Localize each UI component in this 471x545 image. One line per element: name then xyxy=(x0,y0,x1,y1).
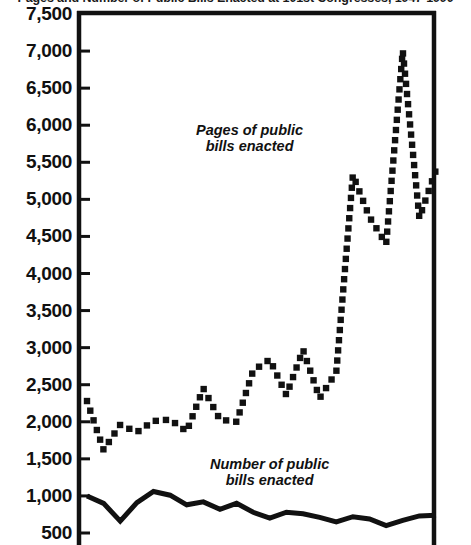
dotted-marker xyxy=(397,76,403,82)
dotted-marker xyxy=(117,422,123,428)
dotted-marker xyxy=(395,96,401,102)
dotted-marker xyxy=(215,413,221,419)
dotted-marker xyxy=(200,386,206,392)
dotted-marker xyxy=(111,430,117,436)
dotted-marker xyxy=(106,439,112,445)
dotted-marker xyxy=(180,426,186,432)
dotted-marker xyxy=(383,239,389,245)
dotted-marker xyxy=(135,428,141,434)
dotted-marker xyxy=(384,228,390,234)
dotted-marker xyxy=(422,197,428,203)
dotted-marker xyxy=(172,420,178,426)
dotted-marker xyxy=(197,394,203,400)
dotted-marker xyxy=(391,147,397,153)
dotted-marker xyxy=(385,218,391,224)
dotted-marker xyxy=(278,382,284,388)
dotted-marker xyxy=(307,367,313,373)
dotted-marker xyxy=(409,142,415,148)
dotted-marker xyxy=(404,91,410,97)
dotted-marker xyxy=(337,327,343,333)
dotted-marker xyxy=(338,307,344,313)
dotted-marker xyxy=(388,178,394,184)
dotted-marker xyxy=(223,417,229,423)
dotted-marker xyxy=(387,188,393,194)
dotted-marker xyxy=(286,383,292,389)
dotted-marker xyxy=(100,446,106,452)
annotation-number-of-public-bills-enacted: Number of public bills enacted xyxy=(210,456,329,488)
dotted-marker xyxy=(334,357,340,363)
dotted-marker xyxy=(297,355,303,361)
dotted-marker xyxy=(389,167,395,173)
dotted-marker xyxy=(144,422,150,428)
dotted-marker xyxy=(429,178,435,184)
dotted-marker xyxy=(186,423,192,429)
dotted-marker xyxy=(337,317,343,323)
dotted-marker xyxy=(246,380,252,386)
dotted-marker xyxy=(406,111,412,117)
dotted-marker xyxy=(205,395,211,401)
dotted-marker xyxy=(90,417,96,423)
dotted-marker xyxy=(343,246,349,252)
dotted-marker xyxy=(432,168,438,174)
annotation-pages-of-public-bills-enacted: Pages of public bills enacted xyxy=(196,122,303,154)
dotted-marker xyxy=(413,182,419,188)
dotted-marker xyxy=(328,376,334,382)
dotted-marker xyxy=(336,337,342,343)
dotted-marker xyxy=(153,418,159,424)
dotted-marker xyxy=(339,296,345,302)
dotted-marker xyxy=(270,363,276,369)
solid-line-path xyxy=(87,491,436,525)
dotted-marker xyxy=(402,71,408,77)
dotted-marker xyxy=(94,427,100,433)
dotted-marker xyxy=(419,207,425,213)
dotted-marker xyxy=(395,106,401,112)
chart-figure: Pages and Number of Public Bills Enacted… xyxy=(0,0,471,545)
dotted-marker xyxy=(310,377,316,383)
dotted-marker xyxy=(373,225,379,231)
dotted-marker xyxy=(407,121,413,127)
dotted-marker xyxy=(346,215,352,221)
dotted-marker xyxy=(341,276,347,282)
dotted-marker xyxy=(240,400,246,406)
dotted-marker xyxy=(300,348,306,354)
dotted-marker xyxy=(283,391,289,397)
dotted-marker xyxy=(333,367,339,373)
dotted-marker xyxy=(233,419,239,425)
dotted-marker xyxy=(412,172,418,178)
dotted-marker xyxy=(392,137,398,143)
dotted-marker xyxy=(274,372,280,378)
dotted-marker xyxy=(356,188,362,194)
dotted-marker xyxy=(403,81,409,87)
dotted-marker xyxy=(293,364,299,370)
dotted-marker xyxy=(256,363,262,369)
dotted-marker xyxy=(425,188,431,194)
dotted-marker xyxy=(414,192,420,198)
dotted-marker xyxy=(396,86,402,92)
dotted-marker xyxy=(386,208,392,214)
dotted-marker xyxy=(364,207,370,213)
dotted-marker xyxy=(347,205,353,211)
dotted-marker xyxy=(400,50,406,56)
dotted-marker xyxy=(342,266,348,272)
dotted-marker xyxy=(393,127,399,133)
dotted-marker xyxy=(84,398,90,404)
dotted-marker xyxy=(193,404,199,410)
dotted-marker xyxy=(408,131,414,137)
dotted-marker xyxy=(304,358,310,364)
dotted-marker xyxy=(314,387,320,393)
dotted-marker xyxy=(405,101,411,107)
dotted-marker xyxy=(210,404,216,410)
dotted-marker xyxy=(360,198,366,204)
series-pages-of-public-bills-enacted xyxy=(84,50,439,452)
dotted-marker xyxy=(340,286,346,292)
dotted-marker xyxy=(411,162,417,168)
dotted-marker xyxy=(317,393,323,399)
dotted-marker xyxy=(390,157,396,163)
dotted-marker xyxy=(352,179,358,185)
dotted-marker xyxy=(387,198,393,204)
dotted-marker xyxy=(249,370,255,376)
dotted-marker xyxy=(163,417,169,423)
dotted-marker xyxy=(349,185,355,191)
dotted-marker xyxy=(97,436,103,442)
dotted-marker xyxy=(394,117,400,123)
